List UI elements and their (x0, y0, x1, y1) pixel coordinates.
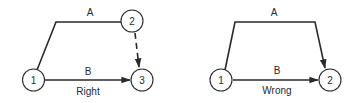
node-2-label: 2 (327, 75, 333, 86)
edge-b-label: B (85, 66, 92, 77)
node-1-label: 1 (31, 75, 37, 86)
diagram-right: A B 1 2 3 Right (23, 7, 154, 97)
edge-a (37, 22, 121, 70)
diagram-wrong: A B 1 2 Wrong (210, 7, 341, 96)
edge-a-label: A (271, 7, 278, 18)
caption-right: Right (76, 86, 100, 97)
node-3-label: 3 (139, 75, 145, 86)
network-diagrams: A B 1 2 3 Right A B 1 2 Wrong (0, 0, 362, 103)
caption-wrong: Wrong (262, 85, 291, 96)
edge-dummy-dashed (135, 33, 139, 67)
edge-a-label: A (87, 7, 94, 18)
edge-a (225, 22, 325, 70)
node-2-label: 2 (129, 16, 135, 27)
node-1-label: 1 (218, 75, 224, 86)
edge-b-label: B (274, 65, 281, 76)
